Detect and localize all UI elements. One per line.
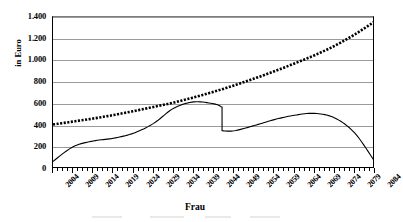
y-axis-tick-label: 1.400 [12,11,46,21]
x-axis-minor-tick [288,168,289,171]
x-axis-minor-tick [238,168,239,171]
x-axis-tick-label: 2014 [104,172,121,189]
x-axis-tick-label: 2019 [124,172,141,189]
x-axis-tick-label: 2049 [245,172,262,189]
x-axis-minor-tick [97,168,98,171]
legend-remnant [0,214,390,220]
x-axis-minor-tick [198,168,199,171]
x-axis-title: Frau [0,202,390,212]
x-axis-minor-tick [228,168,229,171]
x-axis-tick-label: 2084 [385,172,402,189]
x-axis-minor-tick [223,168,224,171]
y-axis-tick-label: 200 [12,141,46,151]
x-axis-tick-label: 2069 [325,172,342,189]
x-axis-minor-tick [319,168,320,171]
plot-area [52,16,374,168]
x-axis-minor-tick [329,168,330,171]
x-axis-tick-label: 2039 [204,172,221,189]
x-axis-minor-tick [278,168,279,171]
x-axis-minor-tick [263,168,264,171]
x-axis-minor-tick [218,168,219,171]
x-axis-tick-label: 2079 [365,172,382,189]
x-axis-minor-tick [163,168,164,171]
x-axis-minor-tick [178,168,179,171]
y-axis-tick-label: 400 [12,120,46,130]
x-axis-minor-tick [349,168,350,171]
x-axis-minor-tick [243,168,244,171]
x-axis-minor-tick [248,168,249,171]
y-axis-tick-label: 1.000 [12,54,46,64]
x-axis-minor-tick [143,168,144,171]
x-axis-tick-label: 2054 [265,172,282,189]
x-axis-minor-tick [359,168,360,171]
x-axis-minor-tick [102,168,103,171]
x-axis-tick-label: 2004 [63,172,80,189]
x-axis-minor-tick [138,168,139,171]
series-2-line [53,102,374,162]
x-axis-tick-label: 2009 [84,172,101,189]
x-axis-tick-label: 2074 [345,172,362,189]
x-axis-minor-tick [67,168,68,171]
y-axis-tick-label: 800 [12,76,46,86]
x-axis-minor-tick [299,168,300,171]
x-axis-minor-tick [369,168,370,171]
x-axis-minor-tick [268,168,269,171]
x-axis-tick-label: 2064 [305,172,322,189]
x-axis-minor-tick [324,168,325,171]
x-axis-minor-tick [364,168,365,171]
x-axis-tick [52,168,53,173]
x-axis-minor-tick [304,168,305,171]
x-axis-minor-tick [208,168,209,171]
y-axis-tick-label: 0 [12,163,46,173]
x-axis-minor-tick [107,168,108,171]
x-axis-minor-tick [148,168,149,171]
x-axis-minor-tick [77,168,78,171]
x-axis-minor-tick [122,168,123,171]
x-axis-minor-tick [158,168,159,171]
x-axis-minor-tick [344,168,345,171]
x-axis-minor-tick [258,168,259,171]
x-axis-tick-label: 2029 [164,172,181,189]
x-axis-minor-tick [283,168,284,171]
x-axis-minor-tick [62,168,63,171]
x-axis-minor-tick [82,168,83,171]
y-axis-tick-label: 1.200 [12,33,46,43]
x-axis-minor-tick [57,168,58,171]
series-lines [53,17,374,168]
y-axis-tick-label: 600 [12,98,46,108]
x-axis-minor-tick [87,168,88,171]
x-axis-tick-label: 2024 [144,172,161,189]
x-axis-minor-tick [168,168,169,171]
series-1-line [53,21,374,124]
x-axis-minor-tick [127,168,128,171]
x-axis-tick-label: 2059 [285,172,302,189]
x-axis-minor-tick [203,168,204,171]
x-axis-minor-tick [188,168,189,171]
x-axis-minor-tick [339,168,340,171]
x-axis-minor-tick [183,168,184,171]
x-axis-tick-label: 2044 [224,172,241,189]
x-axis-tick-label: 2034 [184,172,201,189]
x-axis-minor-tick [117,168,118,171]
x-axis-minor-tick [309,168,310,171]
